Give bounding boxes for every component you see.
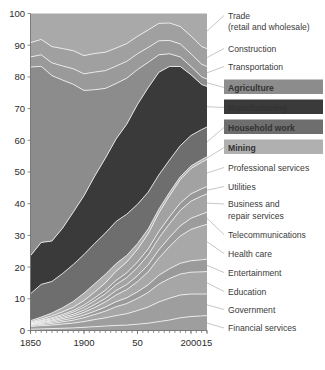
category-label-financial-services: Financial services — [228, 323, 296, 333]
chart-canvas: 0102030405060708090100 1850190050200015 … — [0, 0, 325, 370]
x-tick-label: 50 — [132, 337, 143, 348]
x-axis: 1850190050200015 — [20, 331, 212, 348]
leader-line — [207, 148, 224, 159]
category-label-professional-services: Professional services — [228, 163, 309, 173]
category-label-telecommunications: Telecommunications — [228, 230, 306, 240]
category-label-health-care: Health care — [228, 249, 272, 259]
y-tick-label: 0 — [20, 325, 25, 336]
category-label-transportation: Transportation — [228, 62, 283, 72]
category-label-construction: Construction — [228, 44, 276, 54]
y-tick-label: 10 — [14, 293, 25, 304]
category-label-utilities: Utilities — [228, 182, 256, 192]
category-label-entertainment: Entertainment — [228, 268, 282, 278]
category-label-manufacturing: Manufacturing — [228, 103, 287, 113]
y-tick-label: 30 — [14, 230, 25, 241]
leader-lines — [207, 16, 224, 329]
leader-line — [207, 305, 224, 310]
category-label-mining: Mining — [228, 143, 256, 153]
y-tick-label: 60 — [14, 135, 25, 146]
y-tick-label: 20 — [14, 262, 25, 273]
leader-line — [207, 128, 224, 142]
leader-line — [207, 67, 224, 73]
y-tick-label: 50 — [14, 166, 25, 177]
x-tick-label: 15 — [202, 337, 213, 348]
y-axis: 0102030405060708090100 — [9, 8, 30, 336]
y-tick-label: 90 — [14, 40, 25, 51]
y-tick-label: 70 — [14, 103, 25, 114]
leader-line — [207, 168, 224, 174]
leader-line — [207, 49, 224, 58]
y-tick-label: 100 — [9, 8, 25, 19]
category-annotations: Trade(retail and wholesale)ConstructionT… — [224, 11, 323, 334]
leader-line — [207, 242, 224, 254]
leader-line — [207, 218, 224, 234]
leader-line — [207, 83, 224, 88]
x-tick-label: 1900 — [73, 337, 94, 348]
leader-line — [207, 265, 224, 272]
category-label-government: Government — [228, 305, 276, 315]
leader-line — [207, 187, 224, 191]
y-tick-label: 80 — [14, 71, 25, 82]
leader-line — [207, 203, 224, 204]
x-tick-label: 2000 — [180, 337, 201, 348]
category-label-education: Education — [228, 287, 266, 297]
leader-line — [207, 107, 224, 108]
category-label-continuation: repair services — [228, 211, 284, 221]
leader-line — [207, 16, 224, 32]
leader-line — [207, 283, 224, 292]
category-label-agriculture: Agriculture — [228, 83, 274, 93]
leader-line — [207, 323, 224, 328]
x-tick-label: 1850 — [20, 337, 41, 348]
category-label-trade: Trade — [228, 11, 250, 21]
stacked-area-chart: 0102030405060708090100 1850190050200015 … — [0, 0, 325, 370]
category-label-household-work: Household work — [228, 123, 295, 133]
category-label-continuation: (retail and wholesale) — [228, 22, 310, 32]
category-label-business-and: Business and — [228, 199, 280, 209]
y-tick-label: 40 — [14, 198, 25, 209]
